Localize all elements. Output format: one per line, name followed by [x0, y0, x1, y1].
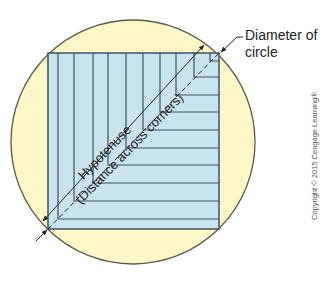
- copyright-notice: Copyright © 2015 Cengage Learning®.: [310, 90, 319, 220]
- diameter-arrow-top: [221, 37, 237, 52]
- diagram-stage: Hypotenuse (Distance across corners) Dia…: [0, 0, 331, 283]
- diameter-label-line1: Diameter of: [245, 27, 317, 44]
- diameter-arrow-bottom: [36, 230, 47, 241]
- diameter-label-line2: circle: [245, 44, 317, 61]
- diameter-callout: Diameter of circle: [245, 27, 317, 61]
